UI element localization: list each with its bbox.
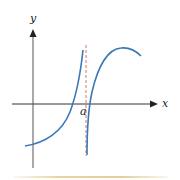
graph-canvas [0,0,180,180]
curve-left-branch [25,50,83,146]
bottom-divider [14,176,168,178]
x-axis-label: x [162,98,168,109]
curve-right-branch [87,48,141,155]
x-axis-arrow-icon [150,101,158,108]
function-graph: y x a [0,0,180,180]
asymptote-label: a [80,106,87,117]
y-axis-label: y [30,13,36,24]
y-axis-arrow-icon [30,29,37,37]
